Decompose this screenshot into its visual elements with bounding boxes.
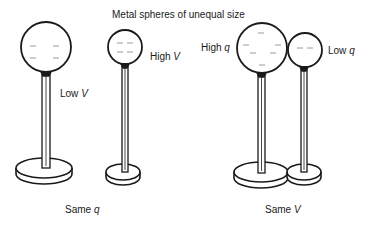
label-high-q: High q (201, 42, 230, 54)
sphere-small-low-q (288, 33, 322, 67)
diagram-canvas (0, 0, 385, 232)
stand-pole-large-right (257, 73, 266, 173)
diagram-title: Metal spheres of unequal size (112, 9, 245, 21)
label-high-v: High V (150, 51, 180, 63)
stand-pole-large-left (41, 72, 51, 168)
caption-same-q: Same q (65, 204, 99, 216)
caption-same-v: Same V (265, 204, 301, 216)
stand-pole-small-right (300, 67, 308, 172)
label-low-v: Low V (60, 88, 88, 100)
sphere-large-low-v (21, 22, 71, 72)
stand-pole-small-left (121, 64, 129, 172)
sphere-small-high-v (108, 30, 142, 64)
label-low-q: Low q (328, 45, 355, 57)
sphere-large-high-q (237, 23, 287, 73)
